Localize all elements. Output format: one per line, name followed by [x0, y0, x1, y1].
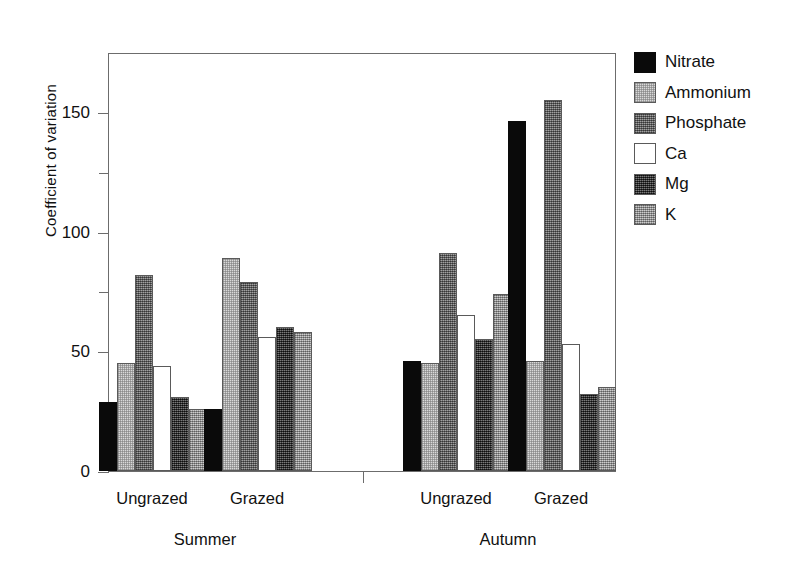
bar-autumn-grazed-ammonium [526, 361, 544, 471]
legend-label-ammonium: Ammonium [665, 83, 751, 103]
legend-label-phosphate: Phosphate [665, 113, 746, 133]
y-tick-label-100: 100 [32, 223, 90, 243]
legend-label-ca: Ca [665, 144, 687, 164]
x-section-label-summer: Summer [174, 530, 236, 549]
bar-autumn-grazed-nitrate [508, 121, 526, 471]
bar-autumn-grazed-k [598, 387, 616, 471]
plot-area [108, 53, 616, 472]
bar-autumn-grazed-ca [562, 344, 580, 471]
legend-item-nitrate[interactable]: Nitrate [634, 47, 794, 78]
x-axis-mid-tick [363, 472, 364, 483]
bar-autumn-grazed-phosphate [544, 100, 562, 471]
y-tick-label-150: 150 [32, 103, 90, 123]
legend-label-mg: Mg [665, 174, 689, 194]
y-tick-label-50: 50 [32, 342, 90, 362]
bar-chart-figure: Coefficient of variation 050100150 Ungra… [0, 0, 799, 569]
x-section-label-autumn: Autumn [480, 530, 537, 549]
y-tick-0 [98, 472, 109, 473]
x-group-label-summer-ungrazed: Ungrazed [116, 489, 188, 508]
legend-item-mg[interactable]: Mg [634, 169, 794, 200]
legend-swatch-ca [634, 143, 656, 164]
legend-item-k[interactable]: K [634, 200, 794, 231]
y-axis-title: Coefficient of variation [42, 41, 59, 281]
bar-group-autumn-grazed [109, 54, 615, 471]
legend-swatch-k [634, 204, 656, 225]
legend-item-ca[interactable]: Ca [634, 139, 794, 170]
bar-autumn-grazed-mg [580, 394, 598, 471]
legend-label-nitrate: Nitrate [665, 52, 715, 72]
legend-swatch-phosphate [634, 113, 656, 134]
legend-item-ammonium[interactable]: Ammonium [634, 78, 794, 109]
legend-swatch-mg [634, 174, 656, 195]
legend-label-k: K [665, 205, 676, 225]
x-group-label-summer-grazed: Grazed [230, 489, 284, 508]
legend-item-phosphate[interactable]: Phosphate [634, 108, 794, 139]
y-tick-label-0: 0 [32, 462, 90, 482]
x-group-label-autumn-ungrazed: Ungrazed [420, 489, 492, 508]
x-group-label-autumn-grazed: Grazed [534, 489, 588, 508]
legend-swatch-ammonium [634, 82, 656, 103]
legend-swatch-nitrate [634, 52, 656, 73]
chart-legend: NitrateAmmoniumPhosphateCaMgK [634, 47, 794, 230]
